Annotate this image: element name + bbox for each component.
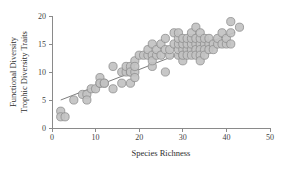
y-tick-label: 10	[38, 68, 46, 77]
data-point	[227, 40, 235, 48]
data-point	[161, 34, 169, 42]
y-tick-label: 15	[38, 40, 46, 49]
data-point	[109, 62, 117, 70]
data-point	[131, 62, 139, 70]
plot-canvas: 0102030405005101520Species RichnessFunct…	[0, 0, 283, 172]
x-tick-label: 40	[222, 133, 230, 142]
x-tick-label: 20	[135, 133, 143, 142]
x-tick-label: 30	[179, 133, 187, 142]
x-tick-label: 10	[92, 133, 100, 142]
x-axis-title: Species Richness	[132, 148, 191, 158]
data-point	[227, 29, 235, 37]
data-point	[83, 96, 91, 104]
data-point	[70, 96, 78, 104]
data-point	[227, 18, 235, 26]
y-axis-title-line-1: Functional Diversity	[8, 36, 18, 107]
data-point	[100, 79, 108, 87]
data-point	[161, 68, 169, 76]
data-points-layer	[57, 18, 244, 121]
data-point	[235, 23, 243, 31]
x-tick-label: 0	[50, 133, 54, 142]
data-point	[131, 74, 139, 82]
data-point	[118, 79, 126, 87]
scatter-plot-figure: 0102030405005101520Species RichnessFunct…	[0, 0, 283, 172]
axes-layer	[49, 16, 271, 132]
y-axis-title-line-2: Trophic Diversity Traits	[19, 31, 29, 113]
x-tick-label: 50	[266, 133, 274, 142]
y-tick-label: 20	[38, 12, 46, 21]
data-point	[61, 113, 69, 121]
y-tick-label: 0	[42, 124, 46, 133]
data-point	[109, 85, 117, 93]
y-tick-label: 5	[42, 96, 46, 105]
